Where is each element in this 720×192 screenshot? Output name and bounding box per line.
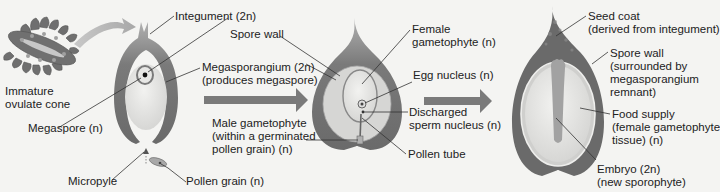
label-line: (female gametophyte [612,121,720,134]
label-spore-wall-2: Spore wall (surrounded by megasporangium… [610,47,699,99]
label-line: Megasporangium (2n) [202,61,318,74]
label-food-supply: Food supply (female gametophyte tissue) … [612,108,720,147]
label-female-gametophyte: Female gametophyte (n) [412,23,496,49]
label-male-gametophyte: Male gametophyte (within a germinated po… [212,117,316,156]
unfertilized-ovule [114,22,178,168]
label-line: megasporangium [610,73,699,86]
label-line: (within a germinated [212,130,316,143]
label-line: remnant) [610,86,699,99]
label-line: Embryo (2n) [597,163,686,176]
label-embryo: Embryo (2n) (new sporophyte) [597,163,686,189]
label-spore-wall-1: Spore wall [230,28,284,41]
label-line: Immature [5,85,70,98]
label-line: Seed coat [588,10,720,23]
label-line: pollen grain) (n) [212,143,316,156]
label-line: Male gametophyte [212,117,316,130]
stage-arrow-1-icon [204,88,308,112]
label-line: Discharged [409,106,501,119]
label-egg-nucleus: Egg nucleus (n) [413,69,494,82]
label-line: Female [412,23,496,36]
label-integument: Integument (2n) [175,10,256,23]
label-seed-coat: Seed coat (derived from integument) [588,10,720,36]
label-line: (surrounded by [610,60,699,73]
label-line: ovulate cone [5,98,70,111]
label-pollen-grain: Pollen grain (n) [186,175,264,188]
label-line: tissue) (n) [612,134,720,147]
label-line: (new sporophyte) [597,176,686,189]
label-line: (produces megaspore) [202,74,318,87]
label-pollen-tube: Pollen tube [408,148,466,161]
label-megaspore: Megaspore (n) [28,122,103,135]
curved-arrow-icon [74,18,136,48]
label-immature-ovulate-cone: Immature ovulate cone [5,85,70,111]
label-micropyle: Micropyle [68,175,117,188]
label-line: (derived from integument) [588,23,720,36]
ovulate-cone-icon [4,17,80,75]
pollinated-ovule [312,18,402,150]
label-discharged-sperm-nucleus: Discharged sperm nucleus (n) [409,106,501,132]
label-line: gametophyte (n) [412,36,496,49]
label-megasporangium: Megasporangium (2n) (produces megaspore) [202,61,318,87]
label-line: sperm nucleus (n) [409,119,501,132]
label-line: Spore wall [610,47,699,60]
label-line: Food supply [612,108,720,121]
